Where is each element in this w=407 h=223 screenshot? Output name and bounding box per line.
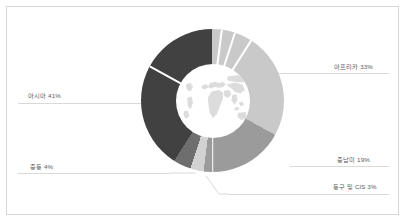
slice-label-middle-east: 중동 4% <box>30 164 53 170</box>
slice-label-latam: 중남미 19% <box>337 157 370 163</box>
donut-chart <box>141 29 284 172</box>
slice-label-africa: 아프리카 33% <box>334 64 373 70</box>
chart-screenshot: 아프리카 33% 중남미 19% 동구 및 CIS 3% 중동 4% 아시아 4… <box>0 0 407 223</box>
world-globe-icon <box>176 64 250 138</box>
donut-center-hole <box>176 64 250 138</box>
slice-label-asia: 아시아 41% <box>28 93 61 99</box>
slice-label-cis: 동구 및 CIS 3% <box>333 184 377 190</box>
